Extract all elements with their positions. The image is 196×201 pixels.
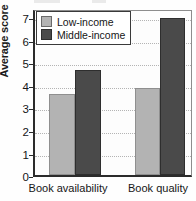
y-axis-title: Average score	[0, 0, 10, 90]
y-tick-label-2: 2	[14, 127, 29, 138]
y-tick-label-4: 4	[14, 82, 29, 93]
y-tick-mark-0	[29, 177, 33, 178]
x-tick-label-book-quality: Book quality	[120, 182, 196, 194]
bar-chart: Average score 0 1 2 3 4 5 6 7 Book avail…	[0, 0, 196, 201]
y-tick-label-7: 7	[14, 14, 29, 25]
y-tick-label-5: 5	[14, 59, 29, 70]
legend-item-low-income: Low-income	[41, 15, 125, 28]
y-tick-label-1: 1	[14, 150, 29, 161]
scan-artifact	[34, 0, 60, 3]
scan-artifact	[92, 0, 106, 3]
y-tick-label-6: 6	[14, 37, 29, 48]
legend-swatch-icon-middle-income	[41, 29, 52, 40]
bar-middle-income-book-quality	[160, 18, 185, 175]
legend-label-middle-income: Middle-income	[57, 29, 125, 41]
y-tick-label-3: 3	[14, 104, 29, 115]
legend: Low-income Middle-income	[36, 11, 131, 45]
bar-low-income-book-availability	[49, 94, 75, 175]
bar-low-income-book-quality	[135, 88, 160, 175]
legend-label-low-income: Low-income	[57, 16, 114, 28]
legend-swatch-icon-low-income	[41, 16, 52, 27]
x-tick-label-book-availability: Book availability	[22, 182, 114, 194]
legend-item-middle-income: Middle-income	[41, 28, 125, 41]
bar-middle-income-book-availability	[75, 70, 101, 175]
